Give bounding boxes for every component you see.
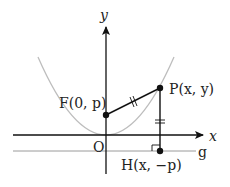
point-p [157,85,163,91]
point-f [103,112,109,118]
directrix-label: g [198,144,207,160]
point-h-label: H(x, −p) [121,157,182,173]
x-axis-label: x [209,128,217,144]
parabola-diagram: y x O g F(0, p) P(x, y) H(x, −p) [0,0,230,187]
point-h [157,148,163,154]
focus-label: F(0, p) [59,95,106,111]
segment-fp [106,88,160,115]
y-axis-label: y [99,7,109,23]
point-p-label: P(x, y) [169,81,214,97]
origin-label: O [93,139,104,155]
